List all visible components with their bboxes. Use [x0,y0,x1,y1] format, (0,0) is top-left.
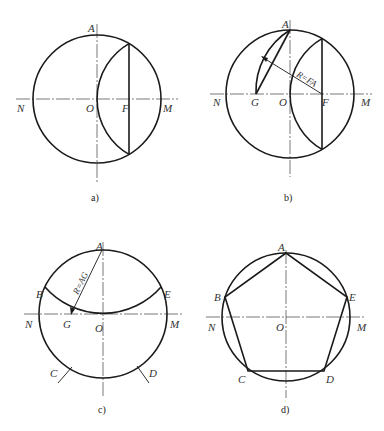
label-o: O [276,321,284,333]
label-a: A [87,22,95,34]
label-m: M [360,96,371,108]
label-o: O [95,322,103,334]
label-b: B [214,291,221,303]
label-c: C [50,367,58,379]
label-a: A [281,18,289,30]
label-n: N [16,102,25,114]
label-d: D [325,373,334,385]
label-a: A [95,240,103,252]
panel-a: A N O F M a) [16,22,178,204]
radius-note: R=FA [294,69,319,89]
label-b: B [36,288,43,300]
panel-d: A B E N O M C D d) [206,241,367,416]
caption-a: a) [91,192,99,204]
label-g: G [251,96,259,108]
label-d: D [148,367,157,379]
caption-c: c) [98,404,106,416]
label-g: G [63,318,71,330]
label-n: N [212,96,221,108]
label-e: E [163,288,171,300]
label-m: M [356,321,367,333]
label-n: N [24,318,33,330]
label-o: O [86,102,94,114]
tick-c [58,367,72,383]
label-e: E [348,291,356,303]
panel-b: R=FA A N G O F M b) [210,18,372,204]
panel-c: R=AG A B E N G O M C D c) [24,240,183,416]
caption-b: b) [284,192,292,204]
radius-note: R=AG [70,270,90,297]
caption-d: d) [281,404,289,416]
label-m: M [169,318,180,330]
tick-d [137,366,149,383]
label-f: F [321,96,329,108]
label-c: C [238,373,246,385]
label-a: A [277,241,285,253]
label-o: O [279,96,287,108]
label-m: M [162,102,173,114]
pentagon-construction-figure: A N O F M a) R=FA A N G O F M b) R=AG [0,0,384,431]
label-f: F [121,102,129,114]
label-n: N [207,321,216,333]
line-ag [256,30,290,94]
